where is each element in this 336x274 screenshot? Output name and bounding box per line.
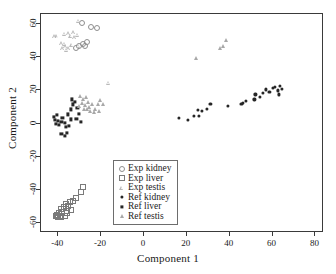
data-point (268, 90, 271, 93)
data-point (261, 91, 264, 94)
data-point (65, 131, 68, 134)
data-point (277, 93, 280, 96)
open-triangle-marker-icon (117, 183, 128, 192)
data-point (77, 44, 81, 48)
x-axis-tick (186, 232, 187, 236)
data-point (197, 114, 200, 117)
y-axis-tick-label: -40 (28, 179, 38, 199)
filled-square-marker-icon (117, 202, 128, 211)
data-point (221, 44, 225, 48)
y-axis-tick-label: 20 (28, 79, 38, 99)
data-point (85, 107, 89, 111)
y-axis-tick-label: 60 (28, 13, 38, 33)
x-axis-tick-label: -40 (37, 238, 77, 248)
plot-area (40, 13, 323, 232)
y-axis-tick-label: -20 (28, 146, 38, 166)
x-axis-tick-label: 20 (166, 238, 206, 248)
data-point (96, 102, 100, 106)
data-point (77, 19, 81, 23)
data-point (63, 121, 66, 124)
legend: Exp kidneyExp liverExp testisRef kidneyR… (113, 160, 178, 225)
data-point (75, 33, 79, 37)
data-point (206, 107, 209, 110)
data-point (67, 124, 70, 127)
data-point (55, 114, 58, 117)
x-axis-tick-label: -20 (80, 238, 120, 248)
data-point (74, 100, 77, 103)
data-point (77, 104, 81, 108)
data-point (82, 43, 88, 49)
data-point (79, 120, 82, 123)
data-point (66, 113, 69, 116)
data-point (186, 119, 189, 122)
y-axis-tick-label: -60 (28, 212, 38, 232)
x-axis-tick-label: 60 (252, 238, 292, 248)
x-axis-title: Component 1 (0, 252, 336, 264)
data-point (258, 95, 261, 98)
data-point (70, 43, 74, 47)
legend-item[interactable]: Ref testis (117, 212, 172, 222)
x-axis-tick (272, 232, 273, 236)
data-point (224, 38, 228, 42)
data-point (69, 118, 72, 121)
data-point (63, 134, 66, 137)
filled-triangle-marker-icon (117, 212, 128, 221)
data-point (253, 98, 256, 101)
data-point (84, 95, 88, 99)
data-point (194, 56, 198, 60)
y-axis-tick-label: 0 (28, 113, 38, 133)
x-axis-tick (100, 232, 101, 236)
data-point (75, 117, 78, 120)
open-square-marker-icon (117, 174, 128, 183)
data-point (69, 108, 72, 111)
data-point (101, 102, 105, 106)
data-point (276, 89, 279, 92)
x-axis-tick-label: 0 (123, 238, 163, 248)
data-point (244, 100, 247, 103)
data-point (281, 87, 284, 90)
y-axis-tick-label: 40 (28, 46, 38, 66)
data-point (58, 124, 61, 127)
x-axis-tick (57, 232, 58, 236)
data-point (94, 25, 100, 31)
data-point (61, 116, 64, 119)
x-axis-tick (314, 232, 315, 236)
data-point (226, 104, 229, 107)
data-point (200, 109, 203, 112)
data-point (65, 48, 69, 52)
scatter-plot-figure: Component 2 -60-40-200204060 -40-2002040… (0, 0, 336, 274)
data-point (63, 32, 67, 36)
data-point (178, 116, 181, 119)
legend-item-label: Ref testis (128, 212, 164, 222)
x-axis-tick-label: 40 (209, 238, 249, 248)
data-point (68, 207, 74, 213)
x-axis-tick (143, 232, 144, 236)
data-point (196, 109, 199, 112)
x-axis-tick (229, 232, 230, 236)
data-point (107, 81, 111, 85)
data-point (209, 102, 212, 105)
x-axis-tick-label: 80 (294, 238, 334, 248)
data-point (97, 109, 101, 113)
data-point (90, 102, 94, 106)
data-point (193, 114, 196, 117)
data-point (254, 93, 257, 96)
filled-circle-marker-icon (117, 193, 128, 202)
data-point (77, 112, 80, 115)
open-circle-marker-icon (117, 164, 128, 173)
y-axis-title: Component 2 (6, 58, 18, 178)
data-point (53, 34, 57, 38)
data-points-layer (41, 14, 322, 231)
